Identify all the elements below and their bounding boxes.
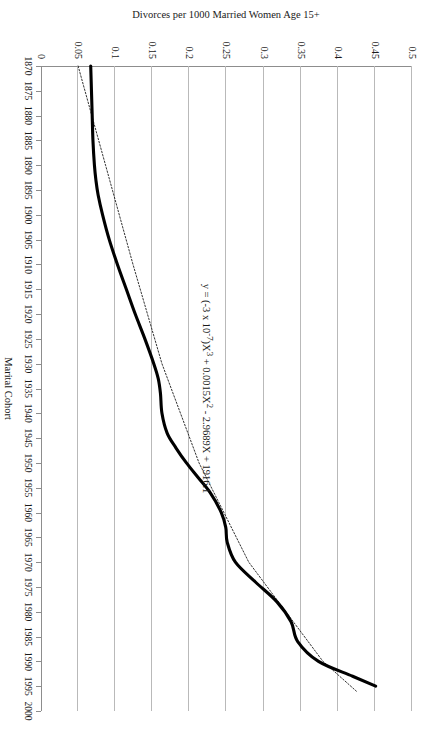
x-tick-label: 1875 xyxy=(23,81,33,100)
x-tick-label: 1970 xyxy=(23,553,33,572)
x-tick-mark xyxy=(36,711,41,712)
y-tick-label: 0.4 xyxy=(333,47,343,60)
trendline-equation-label: y = (-3 x 10-7)X3 + 0.0015X2 - 2.9689X +… xyxy=(201,284,216,494)
x-tick-label: 1915 xyxy=(23,280,33,299)
y-tick-label: 0.2 xyxy=(184,47,194,60)
x-tick-label: 1990 xyxy=(23,652,33,671)
series-layer xyxy=(41,66,412,711)
x-tick-label: 1885 xyxy=(23,131,33,150)
cubic-trendline xyxy=(78,66,356,691)
x-tick-label: 1995 xyxy=(23,677,33,696)
y-tick-label: 0.05 xyxy=(73,42,83,60)
y-tick-label: 0 xyxy=(36,54,46,59)
y-tick-label: 0.5 xyxy=(407,47,417,60)
x-tick-label: 1940 xyxy=(23,404,33,423)
x-tick-label: 1945 xyxy=(23,429,33,448)
x-tick-label: 1910 xyxy=(23,255,33,274)
y-axis-title: Divorces per 1000 Married Women Age 15+ xyxy=(133,9,320,20)
x-tick-label: 1980 xyxy=(23,602,33,621)
x-tick-label: 1920 xyxy=(23,305,33,324)
x-tick-label: 1890 xyxy=(23,156,33,175)
x-tick-label: 2000 xyxy=(23,702,33,721)
x-tick-label: 1895 xyxy=(23,181,33,200)
divorce-rate-chart: 00.050.10.150.20.250.30.350.40.450.5 187… xyxy=(0,0,434,733)
x-tick-label: 1900 xyxy=(23,205,33,224)
plot-area: 00.050.10.150.20.250.30.350.40.450.5 187… xyxy=(41,66,412,711)
x-tick-label: 1905 xyxy=(23,230,33,249)
x-tick-label: 1985 xyxy=(23,627,33,646)
y-tick-label: 0.15 xyxy=(147,42,157,60)
y-tick-label: 0.35 xyxy=(296,42,306,60)
x-tick-label: 1930 xyxy=(23,354,33,373)
x-tick-label: 1950 xyxy=(23,453,33,472)
y-tick-label: 0.1 xyxy=(110,47,120,60)
chart-page: 00.050.10.150.20.250.30.350.40.450.5 187… xyxy=(0,0,434,733)
observed-divorce-rate-line xyxy=(91,66,376,686)
x-tick-label: 1870 xyxy=(23,57,33,76)
rotated-chart-wrapper: 00.050.10.150.20.250.30.350.40.450.5 187… xyxy=(0,0,434,733)
y-tick-label: 0.45 xyxy=(370,42,380,60)
y-tick-label: 0.3 xyxy=(259,47,269,60)
x-axis-title: Marital Cohort xyxy=(3,357,14,420)
x-tick-label: 1955 xyxy=(23,478,33,497)
x-tick-label: 1925 xyxy=(23,329,33,348)
x-tick-label: 1935 xyxy=(23,379,33,398)
x-tick-label: 1975 xyxy=(23,577,33,596)
y-tick-label: 0.25 xyxy=(222,42,232,60)
x-tick-label: 1965 xyxy=(23,528,33,547)
x-tick-label: 1880 xyxy=(23,106,33,125)
x-tick-label: 1960 xyxy=(23,503,33,522)
